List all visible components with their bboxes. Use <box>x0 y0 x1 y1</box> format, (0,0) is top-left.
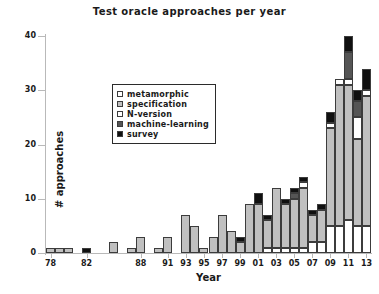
bar-segment <box>263 215 272 220</box>
y-axis-label: # approaches <box>54 110 65 230</box>
bar-stack[interactable] <box>190 36 199 253</box>
bar-stack[interactable] <box>308 36 317 253</box>
bar-stack[interactable] <box>82 36 91 253</box>
bar-stack[interactable] <box>272 36 281 253</box>
y-tick <box>38 36 45 37</box>
bar-segment <box>181 215 190 253</box>
bar-stack[interactable] <box>281 36 290 253</box>
bar-segment <box>299 248 308 253</box>
bar-stack[interactable] <box>64 36 73 253</box>
bar-segment <box>335 85 344 226</box>
bar-stack[interactable] <box>181 36 190 253</box>
bar-segment <box>299 188 308 248</box>
legend-label: specification <box>127 100 187 109</box>
legend-swatch-icon <box>117 121 123 127</box>
bar-stack[interactable] <box>118 36 127 253</box>
bar-segment <box>317 210 326 243</box>
bar-stack[interactable] <box>236 36 245 253</box>
bar-segment <box>299 182 308 187</box>
bar-segment <box>218 215 227 253</box>
bar-stack[interactable] <box>245 36 254 253</box>
bar-stack[interactable] <box>362 36 371 253</box>
bar-stack[interactable] <box>263 36 272 253</box>
bar-stack[interactable] <box>218 36 227 253</box>
bar-segment <box>245 204 254 253</box>
bar-segment <box>335 79 344 84</box>
x-tick <box>204 254 205 258</box>
x-tick-label: 82 <box>74 259 100 268</box>
bar-stack[interactable] <box>136 36 145 253</box>
bar-segment <box>236 242 245 253</box>
bar-stack[interactable] <box>209 36 218 253</box>
bar-stack[interactable] <box>199 36 208 253</box>
bar-stack[interactable] <box>163 36 172 253</box>
bar-stack[interactable] <box>227 36 236 253</box>
chart-legend: metamorphicspecificationN-versionmachine… <box>112 84 216 144</box>
bar-segment <box>308 210 317 215</box>
bar-segment <box>326 112 335 123</box>
bar-segment <box>263 220 272 247</box>
x-tick <box>51 254 52 258</box>
bar-segment <box>281 248 290 253</box>
bar-segment <box>64 248 73 253</box>
bar-segment <box>136 237 145 253</box>
bar-segment <box>353 117 362 139</box>
bar-segment <box>109 242 118 253</box>
bar-segment <box>281 199 290 204</box>
bar-stack[interactable] <box>353 36 362 253</box>
legend-item[interactable]: metamorphic <box>117 89 209 99</box>
bar-stack[interactable] <box>91 36 100 253</box>
x-tick <box>366 254 367 258</box>
bar-stack[interactable] <box>154 36 163 253</box>
bar-segment <box>326 128 335 226</box>
x-tick <box>330 254 331 258</box>
bar-stack[interactable] <box>145 36 154 253</box>
x-tick <box>240 254 241 258</box>
bar-stack[interactable] <box>127 36 136 253</box>
x-tick <box>348 254 349 258</box>
bar-segment <box>362 90 371 95</box>
plot-area: # approaches <box>46 36 371 253</box>
bar-segment <box>236 237 245 242</box>
bar-segment <box>326 123 335 128</box>
bar-segment <box>326 226 335 253</box>
bar-stack[interactable] <box>172 36 181 253</box>
bar-segment <box>362 96 371 226</box>
bar-segment <box>335 226 344 253</box>
legend-swatch-icon <box>117 111 123 117</box>
bar-stack[interactable] <box>100 36 109 253</box>
chart-figure: Test oracle approaches per year 01020304… <box>0 0 379 294</box>
bar-segment <box>263 248 272 253</box>
x-tick <box>87 254 88 258</box>
bar-stack[interactable] <box>299 36 308 253</box>
bar-stack[interactable] <box>344 36 353 253</box>
x-tick <box>141 254 142 258</box>
y-tick <box>38 253 45 254</box>
bar-segment <box>272 188 281 248</box>
x-tick <box>222 254 223 258</box>
bar-stack[interactable] <box>317 36 326 253</box>
legend-item[interactable]: specification <box>117 99 209 109</box>
bar-stack[interactable] <box>290 36 299 253</box>
y-tick-label: 20 <box>10 140 36 149</box>
bar-stack[interactable] <box>109 36 118 253</box>
bar-segment <box>290 188 299 193</box>
bar-stack[interactable] <box>73 36 82 253</box>
y-tick <box>38 90 45 91</box>
legend-item[interactable]: survey <box>117 129 209 139</box>
x-tick-label: 78 <box>38 259 64 268</box>
legend-item[interactable]: N-version <box>117 109 209 119</box>
x-tick <box>186 254 187 258</box>
bar-segment <box>344 36 353 52</box>
bar-stack[interactable] <box>326 36 335 253</box>
x-tick <box>276 254 277 258</box>
bar-segment <box>163 237 172 253</box>
bar-segment <box>209 237 218 253</box>
legend-item[interactable]: machine-learning <box>117 119 209 129</box>
x-tick-label: 13 <box>353 259 379 268</box>
bar-stack[interactable] <box>254 36 263 253</box>
bar-stack[interactable] <box>335 36 344 253</box>
x-axis-line <box>45 253 372 254</box>
x-tick <box>294 254 295 258</box>
legend-swatch-icon <box>117 91 123 97</box>
